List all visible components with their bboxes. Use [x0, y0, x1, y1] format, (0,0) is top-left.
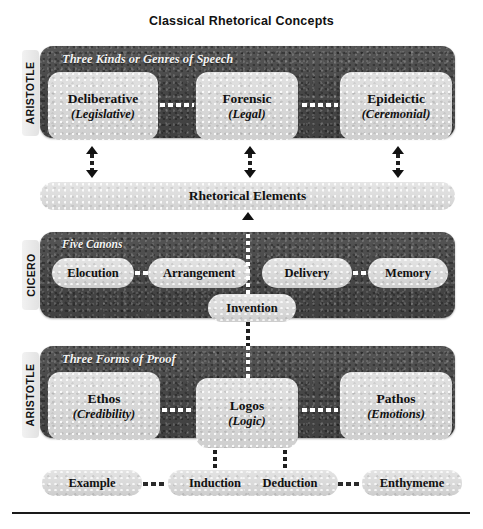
bottom-divider: [12, 512, 470, 514]
reasoning-pill-deduction[interactable]: Deduction: [242, 470, 338, 496]
proof-box-pathos[interactable]: Pathos (Emotions): [340, 372, 452, 440]
connector-delivery-memory: [353, 271, 368, 275]
canon-pill-label: Invention: [226, 301, 277, 316]
genre-box-title: Forensic: [222, 91, 271, 106]
arrow-line-forensic: [248, 154, 252, 170]
arrow-up-forensic: [244, 146, 256, 154]
reasoning-pill-label: Deduction: [263, 476, 318, 491]
connector-logos-to-induction: [213, 450, 217, 468]
arrow-up-deliberative: [86, 146, 98, 154]
reasoning-pill-label: Enthymeme: [380, 476, 445, 491]
genre-box-subtitle: (Ceremonial): [362, 107, 431, 121]
canon-pill-elocution[interactable]: Elocution: [52, 258, 134, 288]
proof-box-logos[interactable]: Logos (Logic): [196, 378, 298, 448]
rhetorical-elements-bar[interactable]: Rhetorical Elements: [40, 182, 455, 210]
arrow-line-epideictic: [396, 154, 400, 170]
connector-forensic-epideictic: [302, 103, 338, 107]
canon-pill-memory[interactable]: Memory: [368, 258, 448, 288]
proof-box-title: Logos: [230, 398, 265, 413]
arrow-down-epideictic: [392, 170, 404, 178]
proof-box-ethos[interactable]: Ethos (Credibility): [48, 372, 160, 440]
connector-logos-pathos: [302, 408, 338, 412]
canon-pill-delivery[interactable]: Delivery: [262, 258, 352, 288]
author-tab-label: ARISTOTLE: [25, 62, 37, 125]
connector-example-induction: [143, 482, 167, 486]
canon-pill-label: Delivery: [284, 266, 329, 281]
connector-deliberative-forensic: [160, 103, 194, 107]
canon-pill-invention[interactable]: Invention: [208, 294, 296, 322]
genre-box-title: Epideictic: [367, 91, 425, 106]
canon-pill-label: Memory: [385, 266, 431, 281]
connector-deduction-enthymeme: [338, 482, 361, 486]
reasoning-pill-example[interactable]: Example: [42, 470, 142, 496]
spine-into-logos: [246, 346, 250, 378]
connector-elocution-arrangement: [135, 271, 148, 275]
genre-box-deliberative[interactable]: Deliberative (Legislative): [48, 72, 158, 140]
spine-invention-to-proof: [246, 322, 250, 346]
canon-pill-arrangement[interactable]: Arrangement: [148, 258, 250, 288]
arrow-up-epideictic: [392, 146, 404, 154]
author-tab-label: CICERO: [25, 253, 37, 296]
proof-box-title: Ethos: [87, 391, 120, 406]
proof-heading: Three Forms of Proof: [62, 352, 176, 367]
page-title: Classical Rhetorical Concepts: [0, 14, 483, 28]
proof-box-subtitle: (Credibility): [73, 407, 136, 421]
genre-box-forensic[interactable]: Forensic (Legal): [196, 72, 298, 140]
proof-box-title: Pathos: [376, 391, 415, 406]
genres-heading: Three Kinds or Genres of Speech: [62, 52, 233, 67]
arrow-line-deliberative: [90, 154, 94, 170]
genre-box-subtitle: (Legislative): [71, 107, 135, 121]
reasoning-pill-enthymeme[interactable]: Enthymeme: [362, 470, 462, 496]
canons-heading: Five Canons: [62, 238, 122, 250]
canon-pill-label: Arrangement: [163, 266, 235, 281]
connector-logos-to-deduction: [283, 450, 287, 468]
author-tab-cicero: CICERO: [22, 240, 39, 310]
canon-pill-label: Elocution: [67, 266, 118, 281]
author-tab-aristotle-proof: ARISTOTLE: [22, 352, 39, 438]
author-tab-label: ARISTOTLE: [25, 364, 37, 427]
diagram-canvas: Classical Rhetorical Concepts ARISTOTLE …: [0, 0, 483, 529]
proof-box-subtitle: (Emotions): [367, 407, 425, 421]
spine-elements-to-invention: [246, 220, 250, 296]
proof-box-subtitle: (Logic): [228, 414, 265, 428]
arrow-up-canons-to-elements: [242, 212, 254, 220]
genre-box-subtitle: (Legal): [228, 107, 265, 121]
arrow-down-deliberative: [86, 170, 98, 178]
genre-box-title: Deliberative: [68, 91, 138, 106]
author-tab-aristotle-genres: ARISTOTLE: [22, 50, 39, 136]
reasoning-pill-label: Induction: [189, 476, 241, 491]
reasoning-pill-label: Example: [68, 476, 115, 491]
connector-ethos-logos: [162, 408, 194, 412]
rhetorical-elements-label: Rhetorical Elements: [189, 188, 306, 204]
genre-box-epideictic[interactable]: Epideictic (Ceremonial): [340, 72, 452, 140]
arrow-down-forensic: [244, 170, 256, 178]
